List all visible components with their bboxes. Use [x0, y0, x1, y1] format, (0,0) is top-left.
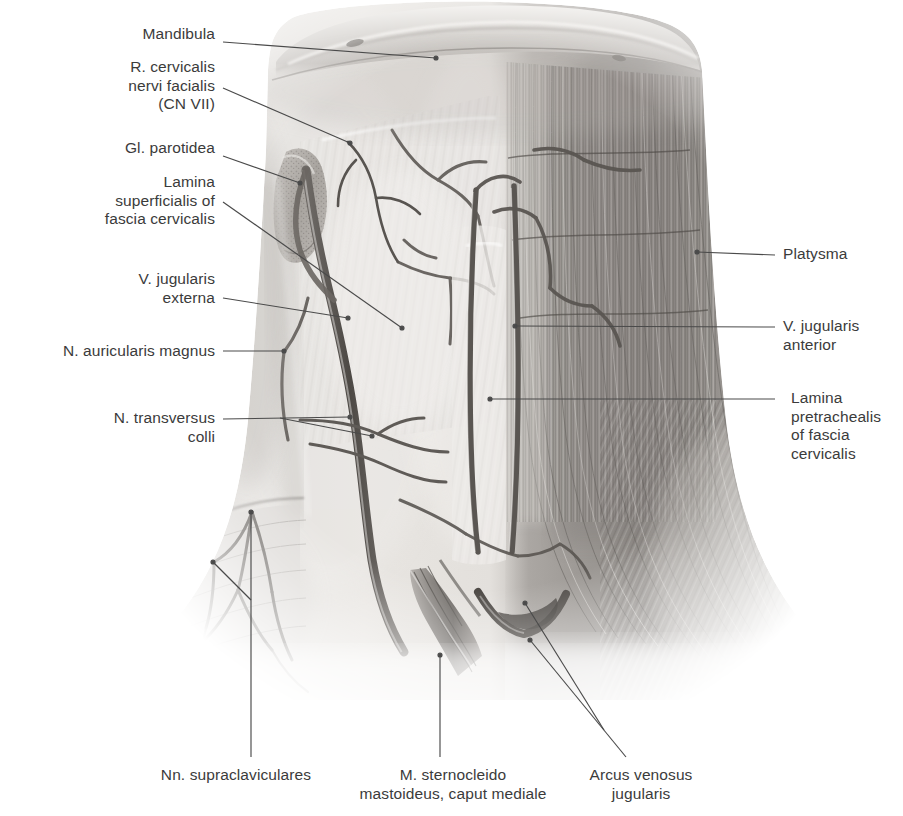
label-n-transversus-colli: N. transversus colli	[114, 409, 215, 446]
label-line: anterior	[783, 336, 836, 353]
label-v-jugularis-externa: V. jugularis externa	[139, 270, 215, 307]
label-gl-parotidea: Gl. parotidea	[125, 139, 215, 158]
label-line: V. jugularis	[139, 270, 215, 287]
label-mandibula: Mandibula	[143, 25, 215, 44]
label-line: cervicalis	[791, 445, 856, 462]
label-r-cervicalis-nervi-facialis: R. cervicalis nervi facialis (CN VII)	[128, 58, 215, 114]
label-platysma: Platysma	[783, 245, 848, 264]
label-line: superficialis of	[115, 192, 215, 209]
label-line: pretrachealis	[791, 408, 881, 425]
label-line: M. sternocleido	[400, 766, 507, 783]
label-v-jugularis-anterior: V. jugularis anterior	[783, 317, 859, 354]
label-lamina-pretrachealis: Lamina pretrachealis of fascia cervicali…	[791, 389, 881, 463]
label-line: nervi facialis	[128, 77, 215, 94]
label-line: of fascia	[791, 426, 850, 443]
anatomy-illustration-svg	[0, 0, 903, 816]
label-line: jugularis	[612, 785, 671, 802]
label-arcus-venosus-jugularis: Arcus venosus jugularis	[566, 766, 716, 803]
label-line: Arcus venosus	[590, 766, 693, 783]
label-line: Lamina	[791, 389, 842, 406]
label-line: externa	[163, 289, 215, 306]
label-line: (CN VII)	[158, 95, 215, 112]
label-line: V. jugularis	[783, 317, 859, 334]
label-nn-supraclaviculares: Nn. supraclaviculares	[136, 766, 336, 785]
label-line: fascia cervicalis	[105, 210, 215, 227]
label-line: N. transversus	[114, 409, 215, 426]
label-line: R. cervicalis	[130, 58, 215, 75]
label-line: Lamina	[164, 173, 215, 190]
label-line: colli	[188, 428, 215, 445]
label-lamina-superficialis: Lamina superficialis of fascia cervicali…	[105, 173, 215, 229]
label-n-auricularis-magnus: N. auricularis magnus	[63, 342, 215, 361]
anatomical-figure: Mandibula R. cervicalis nervi facialis (…	[0, 0, 903, 816]
label-line: mastoideus, caput mediale	[360, 785, 547, 802]
label-m-sternocleidomastoideus: M. sternocleido mastoideus, caput medial…	[322, 766, 584, 803]
